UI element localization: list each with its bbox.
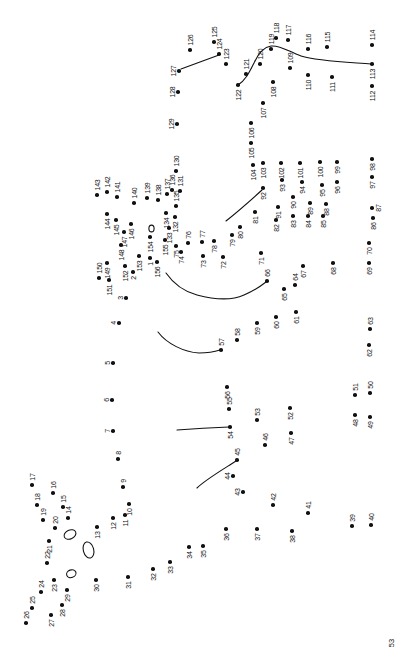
dot-61 (294, 310, 298, 314)
dot-label-78: 78 (211, 245, 218, 252)
dot-label-1: 1 (147, 262, 154, 266)
dot-138 (156, 198, 160, 202)
dot-17 (30, 483, 34, 487)
dot-label-33: 33 (167, 566, 174, 573)
dot-label-123: 123 (223, 49, 230, 60)
dot-label-12: 12 (110, 522, 117, 529)
dot-101 (298, 161, 302, 165)
dot-152 (123, 264, 127, 268)
dot-102 (279, 161, 283, 165)
dot-label-13: 13 (94, 531, 101, 538)
dot-97 (370, 175, 374, 179)
dot-120 (258, 62, 262, 66)
dot-51 (353, 393, 357, 397)
dot-44 (231, 474, 235, 478)
dot-label-83: 83 (290, 220, 297, 227)
dot-56 (225, 385, 229, 389)
dot-12 (111, 516, 115, 520)
dot-6 (110, 398, 114, 402)
dot-39 (350, 524, 354, 528)
dot-label-127: 127 (170, 65, 177, 76)
dot-label-72: 72 (220, 261, 227, 268)
dot-label-106: 106 (248, 127, 255, 138)
dot-32 (151, 567, 155, 571)
dot-label-84: 84 (305, 220, 312, 227)
dot-label-97: 97 (369, 181, 376, 188)
dot-label-118: 118 (273, 23, 280, 34)
dot-label-11: 11 (122, 519, 129, 526)
dot-label-96: 96 (334, 186, 341, 193)
dot-57 (219, 348, 223, 352)
dot-label-142: 142 (104, 177, 111, 188)
dot-label-54: 54 (227, 431, 234, 438)
dot-label-130: 130 (173, 156, 180, 167)
dot-label-95: 95 (319, 189, 326, 196)
dot-54 (228, 425, 232, 429)
dot-129 (175, 122, 179, 126)
dot-label-67: 67 (300, 270, 307, 277)
dot-4 (117, 321, 121, 325)
dot-107 (261, 101, 265, 105)
dot-47 (289, 431, 293, 435)
dot-label-61: 61 (293, 316, 300, 323)
dot-115 (325, 45, 329, 49)
dot-92 (261, 186, 265, 190)
dot-22 (45, 561, 49, 565)
dot-label-90: 90 (290, 201, 297, 208)
dot-121 (244, 72, 248, 76)
dot-76 (186, 241, 190, 245)
dot-156 (155, 260, 159, 264)
dot-68 (331, 261, 335, 265)
dot-label-110: 110 (305, 80, 312, 91)
dot-87 (370, 206, 374, 210)
dot-label-100: 100 (317, 166, 324, 177)
dot-label-154: 154 (147, 241, 154, 252)
dot-8 (116, 457, 120, 461)
dot-124 (217, 52, 221, 56)
dot-60 (274, 315, 278, 319)
dot-58 (235, 338, 239, 342)
dot-label-50: 50 (367, 381, 374, 388)
dot-62 (367, 343, 371, 347)
dot-label-128: 128 (169, 86, 176, 97)
dot-label-57: 57 (218, 338, 225, 345)
dot-153 (137, 254, 141, 258)
dot-label-3: 3 (117, 296, 124, 300)
dot-label-111: 111 (329, 82, 336, 92)
dot-label-91: 91 (275, 211, 282, 218)
dot-label-6: 6 (103, 398, 110, 402)
dot-11 (123, 513, 127, 517)
dot-155 (163, 238, 167, 242)
dot-78 (212, 239, 216, 243)
dot-label-104: 104 (250, 169, 257, 180)
dot-81 (253, 210, 257, 214)
dot-37 (255, 527, 259, 531)
dot-150 (97, 276, 101, 280)
dot-18 (35, 503, 39, 507)
dot-label-45: 45 (234, 448, 241, 455)
page-number: 53 (387, 639, 396, 647)
dot-label-98: 98 (369, 163, 376, 170)
dot-label-144: 144 (104, 218, 111, 229)
dot-99 (335, 160, 339, 164)
dot-label-103: 103 (260, 167, 267, 178)
dot-33 (168, 560, 172, 564)
dot-74 (179, 250, 183, 254)
dot-label-115: 115 (324, 32, 331, 43)
dot-label-46: 46 (262, 433, 269, 440)
dot-94 (300, 180, 304, 184)
dot-label-113: 113 (369, 69, 376, 80)
dot-label-66: 66 (264, 269, 271, 276)
dot-label-76: 76 (185, 231, 192, 238)
dot-label-25: 25 (29, 596, 36, 603)
dot-label-112: 112 (369, 91, 376, 102)
dot-13 (95, 525, 99, 529)
dot-label-35: 35 (200, 550, 207, 557)
dot-95 (320, 183, 324, 187)
dots-layer: 1234567891011121314151617181920212223242… (0, 0, 399, 653)
dot-label-64: 64 (292, 273, 299, 280)
dot-52 (288, 406, 292, 410)
dot-label-88: 88 (323, 208, 330, 215)
dot-label-56: 56 (224, 391, 231, 398)
dot-144 (105, 212, 109, 216)
